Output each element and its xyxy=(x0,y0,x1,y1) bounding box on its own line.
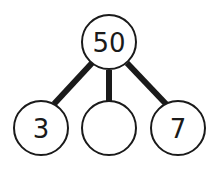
edge-whole-to-part-1 xyxy=(54,63,92,104)
part-3-value: 7 xyxy=(170,114,187,144)
edge-whole-to-part-3 xyxy=(127,63,166,104)
part-node-1: 3 xyxy=(14,101,68,155)
part-1-value: 3 xyxy=(33,114,50,144)
part-node-3: 7 xyxy=(151,101,205,155)
whole-value: 50 xyxy=(92,28,125,58)
part-node-2[interactable] xyxy=(82,101,136,155)
whole-node: 50 xyxy=(82,15,136,69)
number-bond-diagram: 50 3 7 xyxy=(0,0,218,170)
